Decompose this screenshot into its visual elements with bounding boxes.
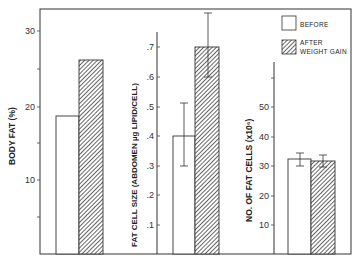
tick-label-20: 20	[25, 102, 35, 112]
panel-fat-cell-size: .7 .6 .5 .4 .3 .2 .1 FAT CELL SIZE (ABDO…	[130, 13, 219, 254]
tick-label-30: 30	[25, 26, 35, 36]
tick-label-50: 50	[259, 102, 269, 112]
bar-after	[195, 47, 219, 254]
y-axis-title: NO. OF FAT CELLS (x10⁶)	[244, 118, 254, 222]
legend-label-after-line2: WEIGHT GAIN	[300, 48, 347, 55]
legend-swatch-after	[282, 40, 296, 54]
tick-label-40: 40	[259, 132, 269, 142]
bar-before	[288, 159, 311, 254]
tick-label-10: 10	[25, 175, 35, 185]
bar-after	[311, 161, 335, 254]
tick-label-0.7: .7	[146, 42, 154, 52]
tick-label-10: 10	[259, 220, 269, 230]
tick-label-0.5: .5	[146, 102, 154, 112]
y-axis-title: BODY FAT (%)	[7, 107, 17, 165]
bar-after	[79, 60, 103, 254]
panel-fat-cell-count: 50 40 30 20 10 NO. OF FAT CELLS (x10⁶)	[244, 78, 335, 254]
legend-swatch-before	[282, 16, 296, 30]
legend: BEFORE AFTER WEIGHT GAIN	[282, 16, 347, 55]
legend-label-before: BEFORE	[300, 21, 329, 28]
bar-before	[56, 116, 79, 254]
panel-body-fat: 30 20 10 BODY FAT (%)	[7, 26, 103, 254]
tick-label-0.4: .4	[146, 131, 154, 141]
tick-label-30: 30	[259, 161, 269, 171]
chart-figure: 30 20 10 BODY FAT (%) .7 .6 .5 .4 .3 .2 …	[0, 0, 357, 261]
tick-label-0.6: .6	[146, 72, 154, 82]
legend-label-after-line1: AFTER	[300, 39, 323, 46]
tick-label-20: 20	[259, 191, 269, 201]
tick-label-0.1: .1	[146, 220, 154, 230]
tick-label-0.3: .3	[146, 161, 154, 171]
y-axis-title: FAT CELL SIZE (ABDOMEN µg LIPID/CELL)	[130, 83, 139, 247]
tick-label-0.2: .2	[146, 190, 154, 200]
